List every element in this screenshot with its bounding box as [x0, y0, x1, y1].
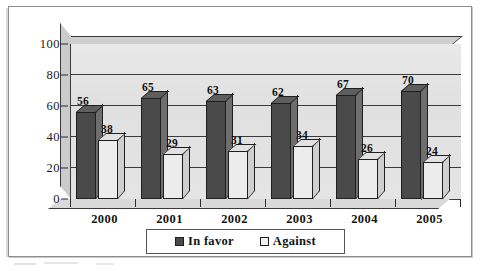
bar-side: [248, 143, 255, 199]
bar-value-label: 62: [272, 86, 284, 98]
bar-face: [141, 98, 161, 199]
bar-in-favor-2001: [141, 98, 161, 199]
chart-legend: In favorAgainst: [146, 229, 345, 254]
bar-side: [313, 138, 320, 199]
legend-swatch-icon: [175, 237, 184, 246]
bar-face: [163, 154, 183, 199]
bar-value-label: 29: [166, 137, 178, 149]
bar-face: [358, 159, 378, 199]
bar-value-label: 34: [296, 129, 308, 141]
bar-value-label: 63: [207, 84, 219, 96]
bar-value-label: 70: [402, 74, 414, 86]
bar-in-favor-2003: [271, 103, 291, 199]
legend-label: In favor: [188, 234, 234, 249]
bar-against-2002: [228, 151, 248, 199]
legend-swatch-icon: [260, 237, 269, 246]
x-tick-mark: [395, 199, 396, 207]
bar-face: [228, 151, 248, 199]
bar-in-favor-2000: [76, 112, 96, 199]
bar-against-2005: [423, 162, 443, 199]
bar-value-label: 65: [142, 81, 154, 93]
bar-face: [293, 146, 313, 199]
bar-face: [76, 112, 96, 199]
bar-face: [271, 103, 291, 199]
bar-face: [423, 162, 443, 199]
bar-face: [401, 91, 421, 200]
legend-item-favor: In favor: [175, 234, 234, 249]
x-tick-label: 2002: [221, 212, 248, 227]
x-tick-mark: [265, 199, 266, 207]
bar-value-label: 56: [77, 95, 89, 107]
bar-in-favor-2004: [336, 95, 356, 199]
x-tick-label: 2004: [351, 212, 378, 227]
bar-against-2003: [293, 146, 313, 199]
x-tick-label: 2003: [286, 212, 313, 227]
x-tick-mark: [200, 199, 201, 207]
bar-value-label: 67: [337, 78, 349, 90]
bar-value-label: 24: [426, 145, 438, 157]
bar-against-2001: [163, 154, 183, 199]
x-tick-mark: [460, 199, 461, 207]
bar-in-favor-2005: [401, 91, 421, 200]
bar-against-2000: [98, 140, 118, 199]
bar-chart: 020406080100 563865296331623467267024 20…: [0, 0, 486, 271]
x-tick-mark: [330, 199, 331, 207]
x-tick-mark: [135, 199, 136, 207]
x-axis: 200020012002200320042005: [0, 208, 486, 230]
bar-value-label: 38: [101, 123, 113, 135]
legend-item-against: Against: [260, 234, 316, 249]
x-tick-label: 2001: [156, 212, 183, 227]
x-tick-label: 2000: [91, 212, 118, 227]
bar-in-favor-2002: [206, 101, 226, 199]
bar-side: [183, 146, 190, 199]
bar-value-label: 26: [361, 142, 373, 154]
x-tick-label: 2005: [416, 212, 443, 227]
bar-against-2004: [358, 159, 378, 199]
bar-face: [336, 95, 356, 199]
bar-face: [98, 140, 118, 199]
bar-side: [118, 132, 125, 199]
bar-value-label: 31: [231, 134, 243, 146]
legend-label: Against: [273, 234, 316, 249]
bar-face: [206, 101, 226, 199]
x-tick-mark: [70, 199, 71, 207]
